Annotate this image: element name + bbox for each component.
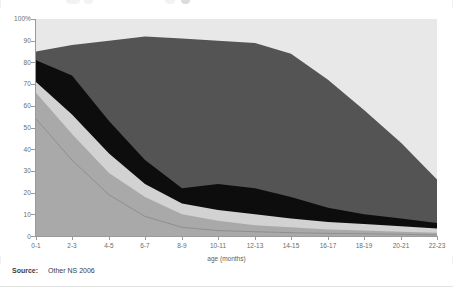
x-tick-label: 6-7 xyxy=(125,242,165,250)
x-tick-label: 8-9 xyxy=(162,242,202,250)
x-tick-label: 16-17 xyxy=(308,242,348,250)
footer-divider xyxy=(0,286,453,287)
legend-ghost-swatch xyxy=(84,0,93,4)
legend-clipped-strip xyxy=(0,0,453,7)
x-axis-line xyxy=(35,236,438,237)
chart-page: 100% 90 80 70 60 50 40 30 20 10 0 xyxy=(0,0,453,291)
stacked-area-chart: 100% 90 80 70 60 50 40 30 20 10 0 xyxy=(0,8,453,256)
x-tick xyxy=(291,237,292,240)
x-tick xyxy=(109,237,110,240)
y-tick-label: 90 xyxy=(5,37,31,44)
x-tick xyxy=(72,237,73,240)
x-tick xyxy=(364,237,365,240)
x-tick-label: 4-5 xyxy=(89,242,129,250)
y-tick-label: 50 xyxy=(5,124,31,131)
y-tick-label: 20 xyxy=(5,189,31,196)
y-tick-label: 40 xyxy=(5,146,31,153)
x-tick xyxy=(328,237,329,240)
legend-ghost-swatch xyxy=(66,0,80,4)
x-tick-label: 10-11 xyxy=(198,242,238,250)
x-tick xyxy=(437,237,438,240)
y-tick-label: 30 xyxy=(5,167,31,174)
x-tick xyxy=(401,237,402,240)
y-axis-labels: 100% 90 80 70 60 50 40 30 20 10 0 xyxy=(0,8,31,256)
y-axis-line xyxy=(35,19,36,237)
x-tick xyxy=(255,237,256,240)
y-tick-label: 70 xyxy=(5,80,31,87)
source-label: Source: xyxy=(12,267,38,274)
x-tick xyxy=(145,237,146,240)
x-tick-label: 20-21 xyxy=(381,242,421,250)
x-tick-label: 14-15 xyxy=(271,242,311,250)
legend-ghost-swatch xyxy=(181,0,190,4)
x-tick-label: 0-1 xyxy=(16,242,56,250)
x-tick xyxy=(182,237,183,240)
y-tick-label: 0 xyxy=(5,233,31,240)
y-tick-label: 60 xyxy=(5,102,31,109)
x-axis-title: age (months) xyxy=(0,255,453,262)
area-series-svg xyxy=(36,19,437,236)
x-tick xyxy=(218,237,219,240)
x-tick-label: 12-13 xyxy=(235,242,275,250)
x-tick-label: 18-19 xyxy=(344,242,384,250)
plot-area xyxy=(36,19,437,236)
legend-ghost-swatch xyxy=(165,0,175,4)
chart-footer: Source:Other NS 2006 xyxy=(0,264,453,291)
y-tick-label: 10 xyxy=(5,211,31,218)
y-tick-label: 80 xyxy=(5,59,31,66)
x-tick-label: 22-23 xyxy=(417,242,453,250)
source-value: Other NS 2006 xyxy=(48,267,95,274)
source-line: Source:Other NS 2006 xyxy=(12,267,95,274)
x-tick xyxy=(36,237,37,240)
y-tick-label: 100% xyxy=(5,15,31,22)
x-tick-label: 2-3 xyxy=(52,242,92,250)
